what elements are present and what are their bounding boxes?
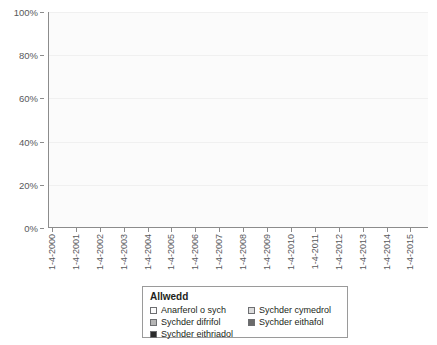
x-axis-tick: [363, 228, 364, 232]
x-axis-tick-label: 1-4-2007: [214, 234, 224, 270]
x-axis-tick-label: 1-4-2003: [119, 234, 129, 270]
x-axis-tick: [339, 228, 340, 232]
x-axis-tick: [315, 228, 316, 232]
x-axis-tick: [267, 228, 268, 232]
y-axis-tick: [40, 12, 44, 13]
x-axis-tick: [195, 228, 196, 232]
legend-item-sychder-difrifol[interactable]: Sychder difrifol: [150, 316, 248, 328]
y-axis: 0%20%40%60%80%100%: [0, 12, 44, 228]
x-axis-tick-label: 1-4-2013: [358, 234, 368, 270]
legend-title: Allwedd: [150, 291, 340, 303]
y-axis-tick-label: 0%: [24, 223, 38, 234]
y-axis-tick: [40, 185, 44, 186]
x-axis-tick: [148, 228, 149, 232]
x-axis-tick: [291, 228, 292, 232]
x-axis-tick-label: 1-4-2012: [334, 234, 344, 270]
x-axis-tick-label: 1-4-2000: [47, 234, 57, 270]
legend-item-sychder-eithriadol[interactable]: Sychder eithriadol: [150, 328, 252, 340]
y-axis-tick-label: 60%: [19, 93, 38, 104]
y-axis-tick: [40, 98, 44, 99]
x-axis-tick: [76, 228, 77, 232]
legend-item-label: Anarferol o sych: [161, 304, 226, 316]
legend-row: Sychder difrifol Sychder eithafol: [150, 316, 340, 328]
y-axis-tick-label: 100%: [14, 7, 38, 18]
stacked-area-series: [48, 12, 428, 228]
x-axis-tick-label: 1-4-2009: [262, 234, 272, 270]
legend-item-label: Sychder difrifol: [161, 316, 221, 328]
chart-figure: 0%20%40%60%80%100% 1-4-20001-4-20011-4-2…: [0, 0, 437, 345]
x-axis-tick: [243, 228, 244, 232]
y-axis-tick-label: 40%: [19, 136, 38, 147]
x-axis-tick-label: 1-4-2014: [382, 234, 392, 270]
x-axis-tick: [100, 228, 101, 232]
legend-swatch-icon: [150, 307, 157, 314]
y-axis-tick: [40, 142, 44, 143]
legend-swatch-icon: [150, 319, 157, 326]
legend-row: Anarferol o sych Sychder cymedrol: [150, 304, 340, 316]
y-axis-tick: [40, 228, 44, 229]
legend-swatch-icon: [150, 331, 157, 338]
x-axis-tick: [219, 228, 220, 232]
x-axis-tick-label: 1-4-2002: [95, 234, 105, 270]
legend: Allwedd Anarferol o sych Sychder cymedro…: [142, 286, 348, 338]
legend-item-label: Sychder cymedrol: [259, 304, 331, 316]
x-axis-tick-label: 1-4-2010: [286, 234, 296, 270]
y-axis-tick-label: 80%: [19, 50, 38, 61]
y-axis-tick: [40, 55, 44, 56]
y-axis-tick-label: 20%: [19, 179, 38, 190]
legend-item-sychder-cymedrol[interactable]: Sychder cymedrol: [248, 304, 340, 316]
legend-swatch-icon: [248, 319, 255, 326]
x-axis-tick-label: 1-4-2001: [71, 234, 81, 270]
x-axis-tick-label: 1-4-2006: [190, 234, 200, 270]
legend-swatch-icon: [248, 307, 255, 314]
x-axis-tick: [410, 228, 411, 232]
x-axis-tick-label: 1-4-2011: [310, 234, 320, 269]
plot-area: [48, 12, 428, 228]
legend-item-anarferol-o-sych[interactable]: Anarferol o sych: [150, 304, 248, 316]
legend-item-sychder-eithafol[interactable]: Sychder eithafol: [248, 316, 340, 328]
x-axis-tick-label: 1-4-2004: [143, 234, 153, 270]
x-axis-tick: [124, 228, 125, 232]
x-axis-tick-label: 1-4-2015: [405, 234, 415, 270]
legend-item-label: Sychder eithriadol: [161, 328, 233, 340]
x-axis-tick-label: 1-4-2005: [166, 234, 176, 270]
x-axis-tick: [52, 228, 53, 232]
legend-item-label: Sychder eithafol: [259, 316, 324, 328]
x-axis-tick: [387, 228, 388, 232]
x-axis: 1-4-20001-4-20011-4-20021-4-20031-4-2004…: [48, 228, 428, 286]
legend-row: Sychder eithriadol: [150, 328, 340, 340]
y-axis-line: [48, 12, 49, 228]
x-axis-tick: [171, 228, 172, 232]
x-axis-tick-label: 1-4-2008: [238, 234, 248, 270]
